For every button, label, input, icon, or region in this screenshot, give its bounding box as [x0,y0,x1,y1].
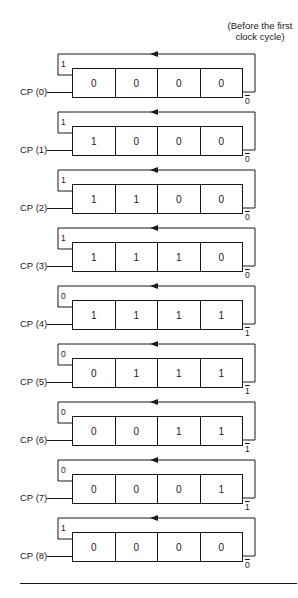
register-cell: 0 [73,69,116,97]
caption: (Before the first clock cycle) [222,20,298,42]
register-cell: 1 [73,185,116,213]
bottom-rule [20,583,297,584]
register-cell: 1 [116,243,159,271]
feedback-input-value: 0 [61,349,66,359]
complement-output-value: 1 [245,386,250,396]
register-cell: 0 [201,69,243,97]
register-cell: 0 [73,359,116,387]
register-cell: 1 [158,359,201,387]
feedback-input-value: 0 [61,291,66,301]
complement-output-value: 0 [245,154,250,164]
complement-output-value: 1 [245,328,250,338]
clock-line [47,440,72,441]
shift-register: 0 0 0 0 [72,68,243,98]
stage-block: 0 1 1 1 1 CP (4) 1 [0,286,298,344]
register-cell: 0 [158,69,201,97]
register-cell: 0 [201,533,243,561]
register-cell: 1 [201,475,243,503]
complement-output-value: 0 [245,212,250,222]
shift-register: 0 0 0 0 [72,532,243,562]
register-cell: 1 [201,359,243,387]
shift-register: 1 1 0 0 [72,184,243,214]
register-cell: 1 [201,301,243,329]
arrow-left-icon [150,51,158,57]
stage-block: 0 0 1 1 1 CP (5) 1 [0,344,298,402]
clock-pulse-label: CP (6) [20,434,47,445]
complement-output-value: 0 [245,270,250,280]
complement-output-value: 1 [245,444,250,454]
feedback-input-value: 0 [61,407,66,417]
clock-line [47,556,72,557]
feedback-input-value: 1 [61,175,66,185]
clock-line [47,208,72,209]
stage-block: 1 1 1 0 0 CP (2) 0 [0,170,298,228]
clock-line [47,92,72,93]
complement-output-value: 1 [245,502,250,512]
register-cell: 0 [73,533,116,561]
register-cell: 0 [116,69,159,97]
clock-line [47,266,72,267]
shift-register: 1 0 0 0 [72,126,243,156]
register-cell: 0 [116,417,159,445]
register-cell: 1 [201,417,243,445]
clock-line [47,150,72,151]
stage-block: 1 1 0 0 0 CP (1) 0 [0,112,298,170]
register-cell: 0 [201,127,243,155]
register-cell: 1 [158,301,201,329]
shift-register: 0 0 0 1 [72,474,243,504]
register-cell: 1 [73,127,116,155]
clock-pulse-label: CP (0) [20,86,47,97]
register-cell: 0 [158,127,201,155]
register-cell: 0 [116,475,159,503]
register-cell: 1 [158,243,201,271]
register-cell: 1 [116,301,159,329]
shift-register: 0 1 1 1 [72,358,243,388]
register-cell: 0 [73,475,116,503]
register-cell: 0 [73,417,116,445]
register-cell: 0 [116,127,159,155]
stage-block: 0 0 0 1 1 CP (6) 1 [0,402,298,460]
stage-block: 0 0 0 0 1 CP (7) 1 [0,460,298,518]
clock-pulse-label: CP (7) [20,492,47,503]
clock-line [47,498,72,499]
clock-line [47,382,72,383]
register-cell: 0 [158,475,201,503]
register-cell: 1 [73,301,116,329]
register-cell: 0 [116,533,159,561]
clock-pulse-label: CP (2) [20,202,47,213]
register-cell: 1 [158,417,201,445]
feedback-input-value: 1 [61,233,66,243]
complement-output-value: 0 [245,96,250,106]
caption-line-1: (Before the first [222,20,298,31]
feedback-input-value: 0 [61,465,66,475]
register-cell: 1 [116,185,159,213]
clock-line [47,324,72,325]
shift-register: 1 1 1 1 [72,300,243,330]
stage-block: 1 0 0 0 0 CP (0) 0 [0,54,298,112]
shift-register: 1 1 1 0 [72,242,243,272]
clock-pulse-label: CP (3) [20,260,47,271]
clock-pulse-label: CP (1) [20,144,47,155]
clock-pulse-label: CP (8) [20,550,47,561]
feedback-input-value: 1 [61,523,66,533]
caption-line-2: clock cycle) [222,31,298,42]
register-cell: 1 [73,243,116,271]
register-cell: 1 [116,359,159,387]
complement-output-value: 0 [245,560,250,570]
register-cell: 0 [201,185,243,213]
clock-pulse-label: CP (5) [20,376,47,387]
stage-block: 1 0 0 0 0 CP (8) 0 [0,518,298,576]
stage-block: 1 1 1 1 0 CP (3) 0 [0,228,298,286]
feedback-input-value: 1 [61,117,66,127]
clock-pulse-label: CP (4) [20,318,47,329]
register-cell: 0 [158,185,201,213]
shift-register: 0 0 1 1 [72,416,243,446]
register-cell: 0 [201,243,243,271]
register-cell: 0 [158,533,201,561]
feedback-input-value: 1 [61,59,66,69]
